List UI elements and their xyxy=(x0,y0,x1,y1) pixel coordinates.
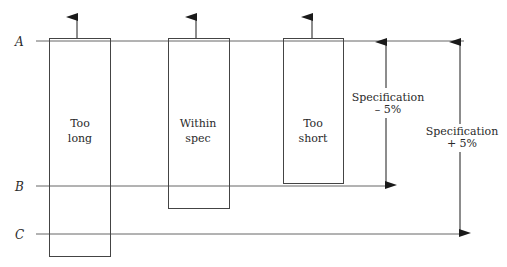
spec-plus-label-line2: + 5% xyxy=(447,137,477,150)
level-label-a: A xyxy=(14,35,24,49)
box-label-within-spec-line2: spec xyxy=(185,132,210,145)
level-label-c: C xyxy=(15,228,24,242)
box-label-too-long-line2: long xyxy=(68,132,92,145)
level-label-b: B xyxy=(14,180,24,194)
spec-tolerance-diagram: A B C Too long Within spec Too short Spe… xyxy=(0,0,507,267)
box-label-too-short-line2: short xyxy=(298,132,328,145)
box-label-within-spec-line1: Within xyxy=(180,117,217,130)
box-too-short xyxy=(284,39,344,184)
box-label-too-short-line1: Too xyxy=(303,117,323,130)
spec-minus-label-line2: – 5% xyxy=(375,103,401,116)
box-too-long xyxy=(50,39,111,257)
box-label-too-long-line1: Too xyxy=(70,117,90,130)
